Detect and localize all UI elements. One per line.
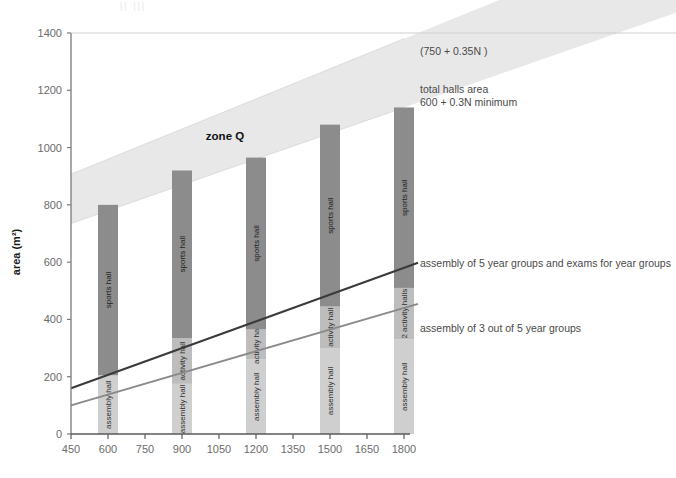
x-tick-label: 1800 (392, 443, 416, 455)
y-tick-label: 400 (44, 313, 62, 325)
bar-segment-label: assembly hall (104, 380, 113, 429)
x-tick-label: 1350 (281, 443, 305, 455)
bar-segment-label: sports hall (400, 179, 409, 216)
bar-segment-label: assembly hall (178, 384, 187, 433)
annotation-upper-bound: (750 + 0.35N ) (420, 45, 487, 57)
bar-segment-label: assembly hall (400, 362, 409, 411)
x-tick-label: 1650 (355, 443, 379, 455)
area-vs-pupils-chart: assembly hallsports hallassembly hallact… (0, 0, 676, 478)
x-tick-label: 600 (99, 443, 117, 455)
bar-segment-label: activity hall (252, 325, 261, 364)
bar-segment-label: sports hall (178, 236, 187, 273)
chart-container: || ||| assembly hallsports hallassembly … (0, 0, 676, 478)
bar-segment-label: assembly hall (326, 367, 335, 416)
trend-line (71, 304, 418, 405)
x-tick-label: 750 (136, 443, 154, 455)
y-tick-label: 800 (44, 199, 62, 211)
bar-segment-label: assembly hall (252, 372, 261, 421)
annotation-assembly-3: assembly of 3 out of 5 year groups (420, 322, 581, 334)
y-tick-label: 200 (44, 371, 62, 383)
x-tick-label: 900 (173, 443, 191, 455)
trend-line (71, 263, 418, 388)
x-tick-label: 1200 (244, 443, 268, 455)
x-tick-label: 1050 (207, 443, 231, 455)
annotation-total-halls-line2: 600 + 0.3N minimum (420, 96, 517, 108)
y-axis-title: area (m²) (10, 228, 22, 275)
x-tick-label: 1500 (318, 443, 342, 455)
y-tick-label: 0 (56, 428, 62, 440)
bar-segment-label: activity hall (326, 308, 335, 347)
zone-q-band (71, 0, 676, 223)
bar-segment-label: sports hall (104, 272, 113, 309)
annotation-assembly-5: assembly of 5 year groups and exams for … (420, 257, 671, 269)
x-tick-label: 450 (62, 443, 80, 455)
y-tick-label: 1000 (38, 142, 62, 154)
annotation-total-halls-line1: total halls area (420, 83, 488, 95)
bar-segment-label: 2 activity halls (400, 289, 409, 339)
zone-q-label: zone Q (206, 130, 244, 142)
bar-segment-label: sports hall (252, 225, 261, 262)
y-tick-label: 1200 (38, 84, 62, 96)
bar-segment-label: sports hall (326, 197, 335, 234)
y-tick-label: 1400 (38, 27, 62, 39)
y-tick-label: 600 (44, 256, 62, 268)
